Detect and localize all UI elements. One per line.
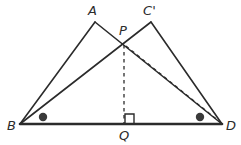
vertex-label-A: A: [88, 4, 97, 17]
vertex-label-P: P: [119, 24, 127, 37]
geometry-canvas: [0, 0, 241, 145]
vertex-label-B: B: [7, 119, 16, 132]
angle-dot-at-B: [39, 113, 47, 121]
segment-B-Cp: [20, 22, 151, 124]
angle-dot-at-D: [196, 113, 204, 121]
segment-Cp-D: [151, 22, 222, 124]
vertex-label-C-prime: C': [143, 4, 156, 17]
vertex-label-D: D: [226, 119, 236, 132]
geometry-figure: A C' P B D Q: [0, 0, 241, 145]
right-angle-marker-at-Q: [125, 114, 134, 123]
segment-B-A: [20, 22, 95, 124]
vertex-label-Q: Q: [119, 129, 129, 142]
